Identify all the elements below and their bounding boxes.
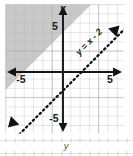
y-tick-label-negative-5: -5 bbox=[49, 112, 58, 124]
screenshot-canvas: -5 5 5 -5 y y = x - 2 bbox=[0, 0, 133, 156]
bottom-partial-figure: y bbox=[0, 138, 133, 156]
coordinate-plane-figure: -5 5 5 -5 y y = x - 2 bbox=[5, 4, 124, 134]
x-tick-label-negative-5: -5 bbox=[16, 73, 25, 85]
y-tick-label-positive-5: 5 bbox=[52, 20, 58, 32]
y-axis-name-label: y bbox=[59, 4, 66, 13]
bottom-strip-svg: y bbox=[0, 138, 133, 156]
graph-svg: -5 5 5 -5 y y = x - 2 bbox=[5, 4, 124, 134]
x-tick-label-positive-5: 5 bbox=[107, 73, 113, 85]
